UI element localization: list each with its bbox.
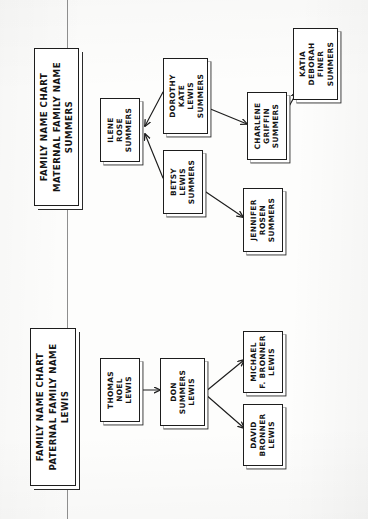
node-label: CHARLENE GRIFFIN SUMMERS	[253, 103, 281, 150]
node-katia-deborah-finer-summers[interactable]: KATIA DEBORAH FINER SUMMERS	[293, 28, 338, 100]
paternal-chart-title-box: FAMILY NAME CHART PATERNAL FAMILY NAME L…	[30, 328, 76, 486]
node-label: MICHAEL F. BRONNER LEWIS	[249, 335, 277, 389]
node-label: BETSY LEWIS SUMMERS	[169, 160, 197, 205]
node-label: THOMAS NOEL LEWIS	[106, 371, 134, 409]
node-david-bronner-lewis[interactable]: DAVID BRONNER LEWIS	[243, 404, 283, 466]
family-chart-page: FAMILY NAME CHART MATERNAL FAMILY NAME S…	[0, 0, 368, 519]
node-charlene-griffin-summers[interactable]: CHARLENE GRIFFIN SUMMERS	[247, 92, 287, 160]
node-jennifer-rosen-summers[interactable]: JENNIFER ROSEN SUMMERS	[243, 188, 283, 252]
node-michael-f-bronner-lewis[interactable]: MICHAEL F. BRONNER LEWIS	[243, 331, 283, 393]
node-label: DAVID BRONNER LEWIS	[249, 413, 277, 456]
maternal-chart-title-box: FAMILY NAME CHART MATERNAL FAMILY NAME S…	[34, 48, 79, 206]
node-label: DOROTHY KATE LEWIS SUMMERS	[167, 74, 204, 119]
node-label: JENNIFER ROSEN SUMMERS	[249, 198, 277, 243]
node-don-summers-lewis[interactable]: DON SUMMERS LEWIS	[160, 358, 205, 426]
node-label: DON SUMMERS LEWIS	[169, 370, 197, 415]
node-label: ILENE ROSE SUMMERS	[106, 108, 134, 153]
paternal-chart-title-text: FAMILY NAME CHART PATERNAL FAMILY NAME L…	[34, 343, 72, 470]
node-label: KATIA DEBORAH FINER SUMMERS	[297, 42, 334, 87]
node-dorothy-kate-lewis-summers[interactable]: DOROTHY KATE LEWIS SUMMERS	[163, 58, 208, 134]
node-betsy-lewis-summers[interactable]: BETSY LEWIS SUMMERS	[163, 150, 203, 214]
maternal-chart-title-text: FAMILY NAME CHART MATERNAL FAMILY NAME S…	[38, 62, 76, 192]
node-thomas-noel-lewis[interactable]: THOMAS NOEL LEWIS	[100, 358, 140, 422]
node-ilene-rose-summers[interactable]: ILENE ROSE SUMMERS	[100, 98, 140, 162]
